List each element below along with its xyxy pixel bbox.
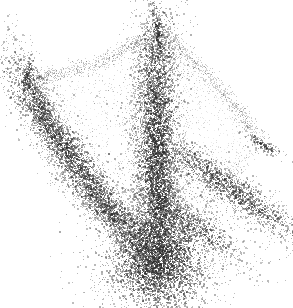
illustration-figure: Stippled anatomical illustration shield-… [0, 0, 293, 308]
stipple-illustration-canvas [0, 0, 293, 308]
